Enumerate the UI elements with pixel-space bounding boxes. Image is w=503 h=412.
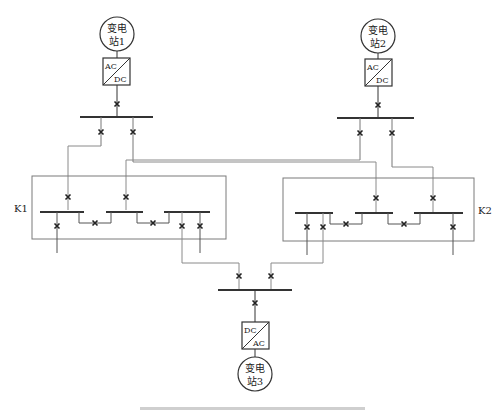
group-K1: K1 xyxy=(14,176,226,263)
figure-caption xyxy=(140,404,365,412)
station-1-converter-top: AC xyxy=(104,62,117,71)
station-3: DC AC 变电 站3 xyxy=(218,274,292,392)
group-K2-label: K2 xyxy=(478,205,492,216)
station-1-converter-bottom: DC xyxy=(114,75,127,84)
station-2: 变电 站2 AC DC xyxy=(337,19,414,167)
group-K2: K2 xyxy=(283,178,492,263)
dc-distribution-diagram: 变电 站1 AC DC 变电 站2 AC DC xyxy=(0,0,503,412)
station-2-label-line1: 变电 xyxy=(368,24,388,36)
group-K2-box xyxy=(283,178,474,241)
feeder-lines xyxy=(68,146,433,212)
station-1: 变电 站1 AC DC xyxy=(80,17,153,162)
station-1-label-line1: 变电 xyxy=(107,22,127,34)
figure-caption-faded-text xyxy=(140,407,365,410)
station-3-label-line2: 站3 xyxy=(247,375,263,387)
station-2-label-line2: 站2 xyxy=(370,37,386,49)
station-3-converter-top: DC xyxy=(244,326,257,335)
station-3-converter-bottom: AC xyxy=(252,339,265,348)
group-K1-label: K1 xyxy=(14,203,28,214)
station-2-converter-top: AC xyxy=(366,63,379,72)
station-3-label-line1: 变电 xyxy=(245,362,265,374)
station-1-label-line2: 站1 xyxy=(109,35,125,47)
group-K1-box xyxy=(32,176,226,239)
station-2-converter-bottom: DC xyxy=(376,76,389,85)
lower-feeder-lines xyxy=(182,263,323,290)
